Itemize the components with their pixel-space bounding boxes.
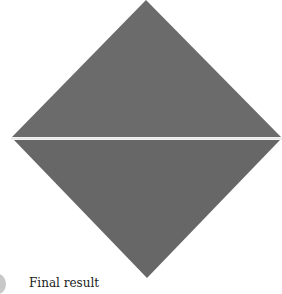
figure-caption: Final result: [29, 276, 99, 290]
diamond-top-half: [12, 0, 281, 137]
diamond-bottom-half: [14, 140, 280, 278]
